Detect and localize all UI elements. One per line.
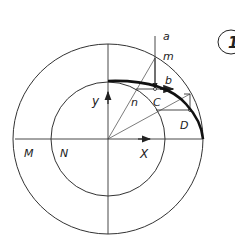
label-d: D (180, 119, 188, 132)
label-m: m (163, 50, 174, 63)
point-c (154, 88, 157, 91)
label-a: a (163, 30, 170, 43)
radial-line-2 (108, 94, 190, 139)
ellipse-construction-diagram: a m b n C D y X M N 1 (0, 0, 235, 251)
label-n: n (131, 96, 138, 109)
label-M: M (24, 147, 34, 160)
label-y: y (91, 94, 100, 108)
label-b: b (165, 74, 172, 87)
label-x: X (139, 147, 149, 161)
label-N: N (60, 147, 68, 160)
label-c: C (153, 96, 161, 109)
figure-number: 1 (228, 34, 235, 52)
